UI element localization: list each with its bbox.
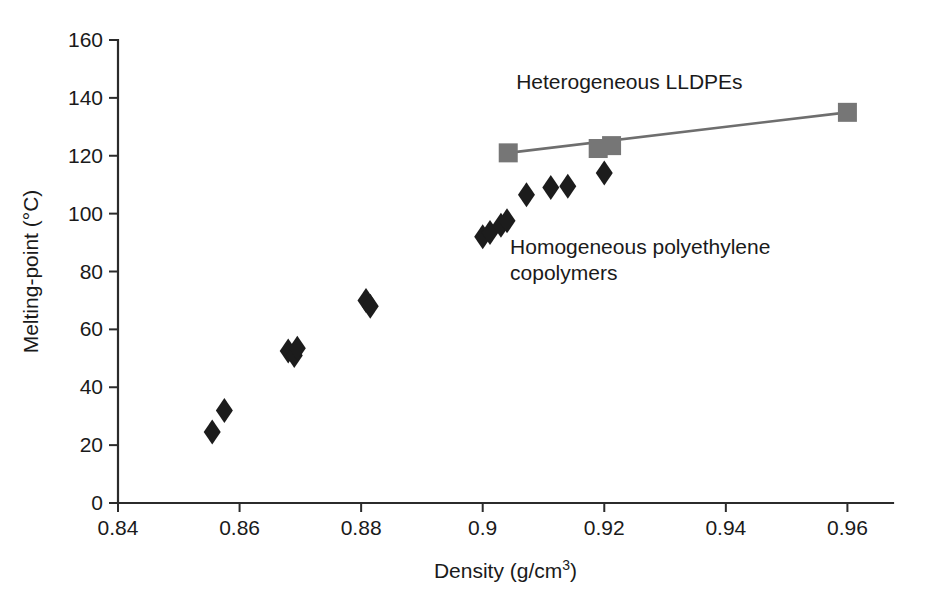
- data-point-square: [838, 103, 857, 122]
- y-tick-label: 60: [80, 317, 103, 340]
- x-tick-label: 0.88: [341, 516, 382, 539]
- y-tick-label: 20: [80, 433, 103, 456]
- y-tick-label: 120: [68, 144, 103, 167]
- x-tick-label: 0.92: [584, 516, 625, 539]
- data-point-square: [602, 136, 621, 155]
- data-point-diamond: [542, 175, 559, 200]
- y-tick-label: 80: [80, 260, 103, 283]
- axis-spines: [118, 40, 893, 503]
- data-point-square: [499, 143, 518, 162]
- scatter-plot-svg: 0204060801001201401600.840.860.880.90.92…: [0, 0, 935, 599]
- homogeneous-label-line2: copolymers: [510, 261, 617, 284]
- x-tick-label: 0.86: [219, 516, 260, 539]
- y-tick-label: 100: [68, 202, 103, 225]
- x-tick-label: 0.84: [98, 516, 139, 539]
- heterogeneous-label: Heterogeneous LLDPEs: [516, 70, 742, 93]
- x-tick-label: 0.9: [468, 516, 497, 539]
- data-point-diamond: [204, 420, 221, 445]
- y-tick-label: 0: [91, 491, 103, 514]
- y-tick-label: 40: [80, 375, 103, 398]
- homogeneous-label-line1: Homogeneous polyethylene: [510, 235, 770, 258]
- y-axis-title: Melting-point (°C): [19, 190, 42, 354]
- series-diamond-markers: [204, 161, 613, 445]
- x-tick-label: 0.96: [827, 516, 868, 539]
- data-point-diamond: [559, 174, 576, 199]
- data-point-diamond: [596, 161, 613, 186]
- y-tick-label: 160: [68, 28, 103, 51]
- data-point-diamond: [216, 398, 233, 423]
- y-tick-label: 140: [68, 86, 103, 109]
- x-axis-title: Density (g/cm3): [434, 557, 577, 582]
- x-tick-label: 0.94: [705, 516, 746, 539]
- data-point-diamond: [518, 182, 535, 207]
- trend-line-square: [508, 112, 847, 153]
- chart-figure: 0204060801001201401600.840.860.880.90.92…: [0, 0, 935, 599]
